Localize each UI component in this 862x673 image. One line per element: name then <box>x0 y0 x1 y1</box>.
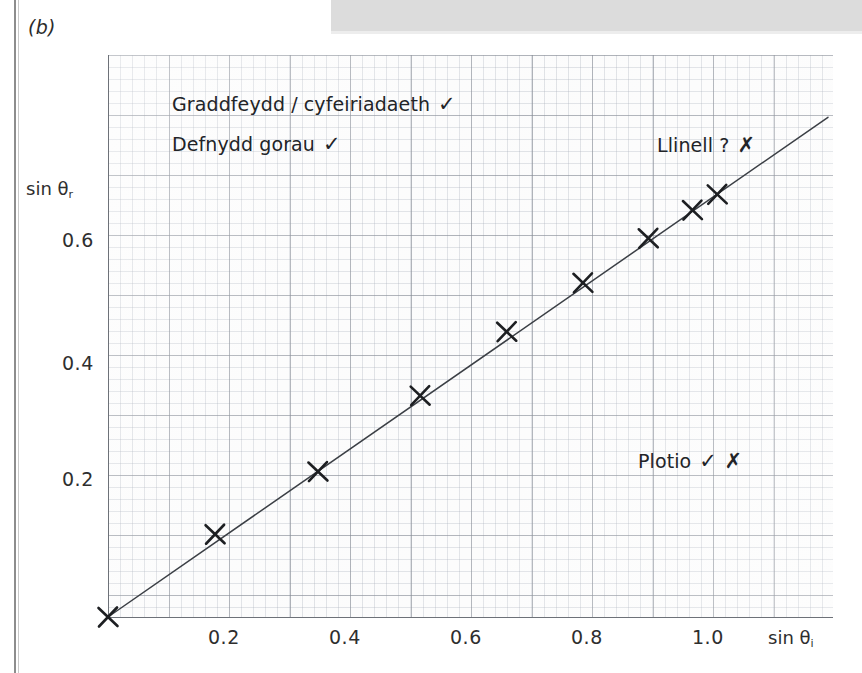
exam-answer-page: (b) sin θr 0.6 0.4 0.2 0.2 0.4 0.6 0.8 1… <box>0 0 862 673</box>
data-point-marker <box>308 462 327 481</box>
data-point-marker <box>683 201 702 220</box>
data-point-marker <box>206 525 225 544</box>
data-point-marker <box>99 608 118 627</box>
data-point-marker <box>497 322 516 341</box>
plot-overlay <box>0 0 862 673</box>
data-point-marker <box>708 185 727 204</box>
